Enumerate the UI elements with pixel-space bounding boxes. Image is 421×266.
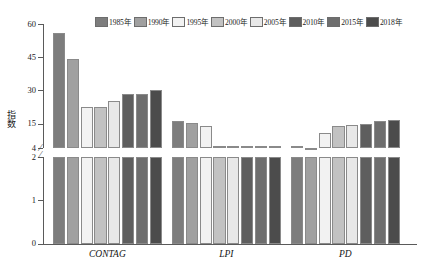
legend-swatch-icon — [366, 17, 379, 27]
bar-segment-lower — [319, 157, 331, 244]
legend-label: 2018年 — [380, 16, 403, 27]
bar-segment-upper — [136, 94, 148, 148]
y-axis-lower-line — [43, 157, 44, 244]
bar-segment-lower — [388, 157, 400, 244]
y-tick-label: 45 — [14, 52, 36, 62]
bar-segment-lower — [374, 157, 386, 244]
bar-segment-lower — [81, 157, 93, 244]
bar-segment-lower — [150, 157, 162, 244]
bar-segment-lower — [200, 157, 212, 244]
bar-segment-lower — [255, 157, 267, 244]
bar-segment-upper — [122, 94, 134, 148]
bar-segment-lower — [67, 157, 79, 244]
bar-segment-upper — [346, 125, 358, 148]
bar-segment-upper — [360, 124, 372, 148]
bar-segment-upper — [291, 146, 303, 149]
y-tick — [38, 200, 43, 201]
bar-segment-upper — [53, 33, 65, 148]
y-axis-upper-line — [43, 24, 44, 148]
x-axis-group-label: LPI — [172, 249, 281, 259]
y-tick-label: 15 — [14, 118, 36, 128]
bar-segment-lower — [213, 157, 225, 244]
legend-label: 2005年 — [264, 16, 287, 27]
bar-segment-lower — [186, 157, 198, 244]
bar-segment-lower — [269, 157, 281, 244]
legend-swatch-icon — [289, 17, 302, 27]
legend-item[interactable]: 2015年 — [327, 16, 364, 27]
y-tick — [38, 90, 43, 91]
x-axis-group-label: PD — [291, 249, 400, 259]
legend-swatch-icon — [134, 17, 147, 27]
bar-segment-lower — [53, 157, 65, 244]
bar-segment-upper — [269, 146, 281, 149]
bar-segment-lower — [241, 157, 253, 244]
y-tick — [38, 57, 43, 58]
bar-segment-lower — [122, 157, 134, 244]
bar-segment-upper — [241, 146, 253, 149]
x-axis-line — [43, 244, 417, 245]
legend-label: 1995年 — [186, 16, 209, 27]
y-tick — [38, 244, 43, 245]
legend-item[interactable]: 2005年 — [250, 16, 287, 27]
legend-swatch-icon — [172, 17, 185, 27]
bar-segment-lower — [360, 157, 372, 244]
bar-segment-lower — [172, 157, 184, 244]
bar-segment-upper — [172, 121, 184, 148]
bar-segment-lower — [227, 157, 239, 244]
bar-segment-lower — [332, 157, 344, 244]
bar-segment-lower — [136, 157, 148, 244]
legend-swatch-icon — [95, 17, 108, 27]
legend-label: 1990年 — [148, 16, 171, 27]
axis-break-icon-lower: ⁄ — [40, 152, 42, 158]
legend-label: 2015年 — [341, 16, 364, 27]
y-tick-label: 2 — [14, 152, 36, 162]
legend-item[interactable]: 1990年 — [134, 16, 171, 27]
legend-label: 2010年 — [303, 16, 326, 27]
bar-segment-lower — [108, 157, 120, 244]
bar-segment-upper — [255, 146, 267, 149]
legend-item[interactable]: 2010年 — [289, 16, 326, 27]
legend-swatch-icon — [327, 17, 340, 27]
y-tick-label: 60 — [14, 19, 36, 29]
x-axis-group-label: CONTAG — [53, 249, 162, 259]
bar-segment-lower — [305, 157, 317, 244]
bar-segment-upper — [374, 121, 386, 148]
bar-segment-upper — [388, 120, 400, 148]
legend-item[interactable]: 1995年 — [172, 16, 209, 27]
y-tick-label: 1 — [14, 195, 36, 205]
y-tick-label: 0 — [14, 238, 36, 248]
y-tick-label: 30 — [14, 85, 36, 95]
bar-segment-lower — [346, 157, 358, 244]
legend-item[interactable]: 1985年 — [95, 16, 132, 27]
bar-segment-lower — [94, 157, 106, 244]
bar-segment-upper — [227, 146, 239, 149]
bar-segment-upper — [332, 126, 344, 148]
bar-segment-upper — [67, 59, 79, 148]
bar-segment-upper — [108, 101, 120, 148]
legend-label: 1985年 — [109, 16, 132, 27]
bar-segment-lower — [291, 157, 303, 244]
bar-segment-upper — [305, 148, 317, 150]
bar-segment-upper — [94, 107, 106, 148]
legend-swatch-icon — [211, 17, 224, 27]
bar-segment-upper — [186, 123, 198, 148]
bar-chart: 1985年1990年1995年2000年2005年2010年2015年2018年… — [0, 0, 421, 266]
bar-segment-upper — [213, 146, 225, 149]
legend-label: 2000年 — [225, 16, 248, 27]
bar-segment-upper — [81, 107, 93, 148]
legend-item[interactable]: 2000年 — [211, 16, 248, 27]
y-tick — [38, 124, 43, 125]
bar-segment-upper — [150, 90, 162, 148]
legend-item[interactable]: 2018年 — [366, 16, 403, 27]
bar-segment-upper — [319, 133, 331, 149]
legend-swatch-icon — [250, 17, 263, 27]
chart-legend: 1985年1990年1995年2000年2005年2010年2015年2018年 — [95, 16, 405, 27]
bar-segment-upper — [200, 126, 212, 148]
y-tick — [38, 24, 43, 25]
